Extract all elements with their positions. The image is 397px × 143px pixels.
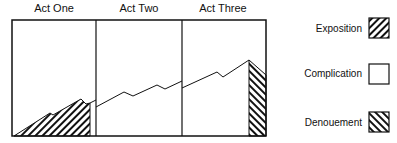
complication-swatch — [369, 64, 389, 84]
exposition-swatch — [369, 18, 389, 38]
legend-complication-label: Complication — [304, 68, 362, 79]
act-one-label: Act One — [11, 2, 97, 14]
legend-exposition-label: Exposition — [316, 23, 362, 34]
act-three-label: Act Three — [180, 2, 266, 14]
denouement-swatch — [369, 112, 389, 132]
act-two-label: Act Two — [96, 2, 182, 14]
legend-denouement-label: Denouement — [305, 117, 362, 128]
